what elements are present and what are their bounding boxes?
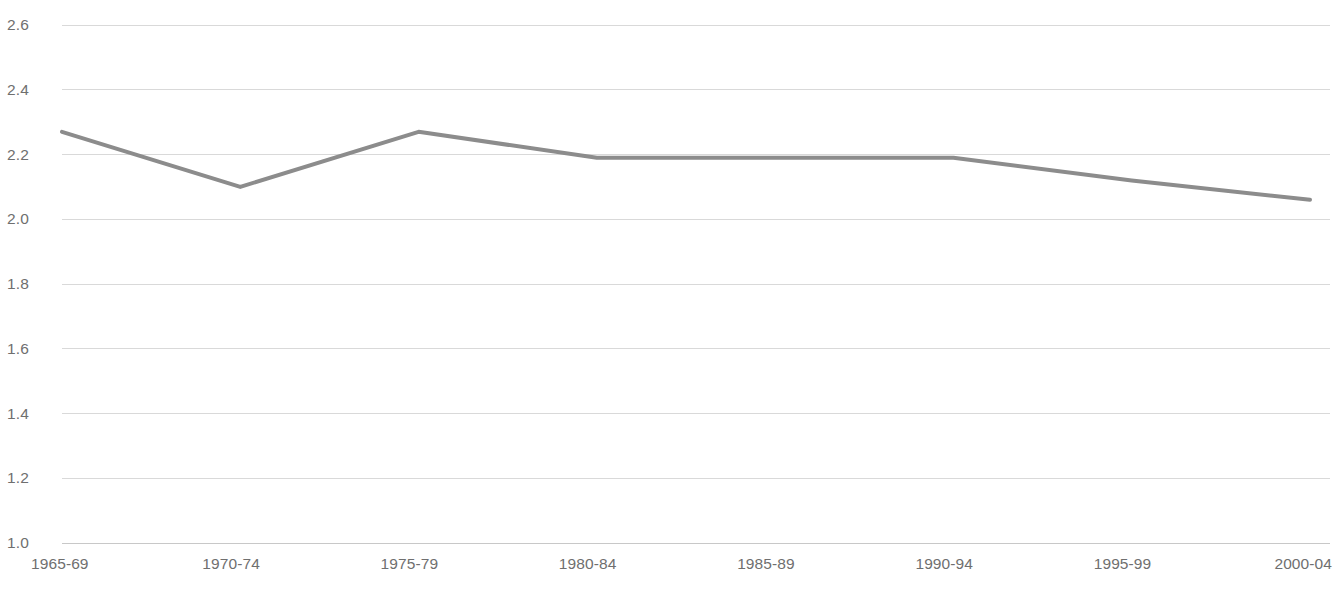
y-axis-tick-label: 1.0: [7, 535, 29, 551]
y-axis-tick-label: 1.4: [7, 406, 29, 422]
gridlines: [62, 25, 1330, 543]
series-lines: [62, 132, 1310, 200]
chart-plot-area: [0, 0, 1339, 592]
x-axis-tick-label: 1975-79: [381, 556, 439, 572]
y-axis-tick-label: 2.0: [7, 211, 29, 227]
x-axis-tick-label: 1985-89: [737, 556, 795, 572]
x-axis-tick-label: 1980-84: [559, 556, 617, 572]
x-axis-tick-label: 1965-69: [31, 556, 89, 572]
y-axis-tick-label: 2.2: [7, 147, 29, 163]
x-axis-tick-label: 2000-04: [1274, 556, 1332, 572]
x-axis-tick-label: 1990-94: [915, 556, 973, 572]
y-axis-tick-label: 2.6: [7, 17, 29, 33]
y-axis-tick-label: 2.4: [7, 82, 29, 98]
bottom-text-artifact: [0, 578, 1339, 592]
y-axis-tick-label: 1.8: [7, 276, 29, 292]
line-chart: 2.62.42.22.01.81.61.41.21.0 1965-691970-…: [0, 0, 1339, 592]
series-line-0: [62, 132, 1310, 200]
x-axis-tick-label: 1995-99: [1094, 556, 1152, 572]
y-axis-tick-label: 1.2: [7, 470, 29, 486]
y-axis-tick-label: 1.6: [7, 341, 29, 357]
x-axis-tick-label: 1970-74: [202, 556, 260, 572]
